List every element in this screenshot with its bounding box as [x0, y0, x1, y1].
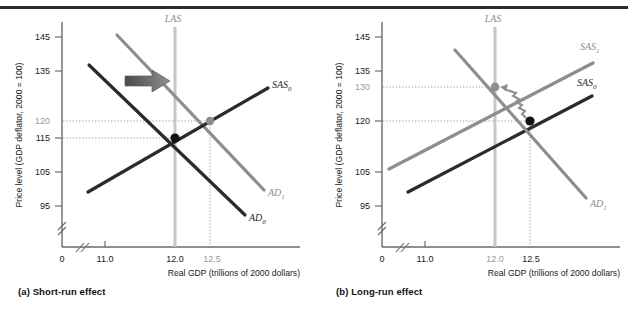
curve-label-ad0: AD0	[248, 212, 266, 226]
x-axis-title: Real GDP (trillions of 2000 dollars)	[488, 268, 620, 278]
figure-root: 145 135 120 115 105 95 0 11.0 12.0 12.5 …	[0, 0, 628, 313]
xtick-label-highlight: 12.0	[486, 254, 504, 264]
xtick-label: 12.5	[522, 254, 540, 264]
y-axis-title: Price level (GDP deflator, 2000 = 100)	[334, 62, 344, 207]
ytick-label: 120	[355, 116, 370, 126]
y-tick-marks-b	[375, 37, 382, 206]
rightward-shift-arrow	[125, 70, 170, 92]
xtick-label: 11.0	[97, 254, 114, 264]
plot-area-a: 145 135 120 115 105 95 0 11.0 12.0 12.5 …	[0, 0, 314, 285]
marker-new-equilibrium-a	[206, 117, 214, 125]
curve-label-las: LAS	[164, 13, 182, 24]
origin-label: 0	[379, 254, 384, 264]
xtick-label: 11.0	[417, 254, 434, 264]
plot-area-b: 145 135 130 120 105 95 0 11.0 12.0 12.5 …	[314, 0, 628, 285]
panel-caption-a: (a) Short-run effect	[18, 286, 106, 297]
ytick-label: 145	[355, 32, 370, 42]
y-axis-title: Price level (GDP deflator, 2000 = 100)	[14, 62, 24, 207]
xtick-label-highlight: 12.5	[203, 254, 221, 264]
ytick-label-highlight: 130	[355, 82, 370, 92]
ytick-label: 135	[35, 66, 50, 76]
panel-caption-b: (b) Long-run effect	[336, 286, 422, 297]
y-tick-marks-a	[55, 37, 62, 206]
curve-label-las: LAS	[484, 13, 502, 24]
ytick-label-highlight: 120	[35, 116, 50, 126]
panel-long-run: 145 135 130 120 105 95 0 11.0 12.0 12.5 …	[314, 0, 628, 313]
x-axis-title: Real GDP (trillions of 2000 dollars)	[168, 268, 300, 278]
ytick-label: 145	[35, 32, 50, 42]
xtick-label: 12.0	[166, 254, 184, 264]
ytick-label: 105	[35, 167, 50, 177]
ytick-label: 95	[40, 201, 50, 211]
origin-label: 0	[59, 254, 64, 264]
marker-short-run-equilibrium-b	[525, 116, 534, 125]
panel-short-run: 145 135 120 115 105 95 0 11.0 12.0 12.5 …	[0, 0, 314, 313]
curve-label-ad1: AD1	[589, 198, 607, 212]
marker-initial-equilibrium-a	[170, 133, 179, 142]
curve-label-sas0: SAS0	[272, 79, 292, 93]
ytick-label: 95	[360, 201, 370, 211]
curve-sas1-b	[389, 63, 593, 169]
curve-label-sas0: SAS0	[577, 77, 597, 91]
ytick-label: 105	[355, 167, 370, 177]
ytick-label: 115	[36, 133, 50, 143]
ytick-label: 135	[355, 66, 370, 76]
curve-label-ad1: AD1	[267, 187, 285, 201]
marker-long-run-equilibrium-b	[491, 83, 500, 92]
guide-lines-a	[63, 121, 210, 247]
curve-label-sas1: SAS1	[580, 41, 600, 55]
